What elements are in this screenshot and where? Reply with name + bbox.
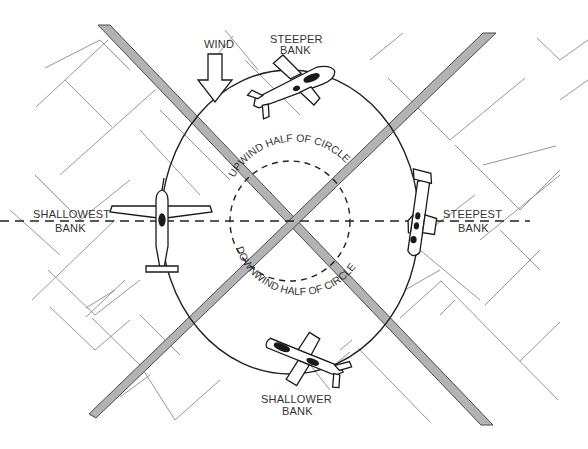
steepest-bank-label-line2: BANK (458, 222, 489, 234)
steeper-bank-label-line2: BANK (280, 44, 311, 56)
airplane-left-icon (110, 178, 212, 272)
airplane-right-icon (401, 169, 443, 258)
shallowest-bank-label-line1: SHALLOWEST (33, 208, 110, 220)
wind-indicator: WIND (198, 38, 234, 102)
steepest-bank-label-line1: STEEPEST (443, 208, 502, 220)
shallower-bank-label-line1: SHALLOWER (261, 393, 332, 405)
shallowest-bank-label-line2: BANK (55, 222, 86, 234)
turn-around-point-diagram: UPWIND HALF OF CIRCLE DOWNWIND HALF OF C… (0, 0, 588, 449)
downwind-half-label: DOWNWIND HALF OF CIRCLE (234, 244, 358, 297)
wind-label: WIND (204, 38, 234, 50)
shallower-bank-label-line2: BANK (282, 405, 313, 417)
down-arrow-icon (198, 54, 232, 102)
